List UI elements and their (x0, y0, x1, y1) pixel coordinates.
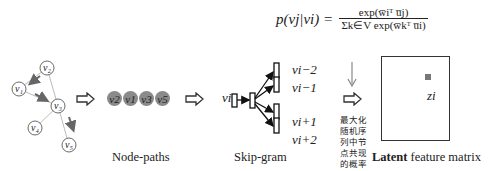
objective-line: 列中节 (339, 137, 367, 148)
latent-feature-matrix (381, 56, 450, 141)
matrix-caption-bold: Latent (372, 150, 407, 164)
objective-text: 最大化 随机序 列中节 点共现 的概率 (339, 115, 367, 170)
node-paths-caption: Node-paths (112, 150, 170, 165)
context-label: vi−1 (292, 80, 317, 96)
probability-formula: p(vj|vi) = exp(w̅iᵀ u̅j) Σk∈V exp(w̅kᵀ u… (276, 6, 428, 32)
node-v5: v₅ (65, 139, 73, 150)
context-label: vi−2 (292, 62, 317, 78)
down-arrow-icon (346, 62, 358, 88)
matrix-caption-rest: feature matrix (407, 150, 481, 164)
path-node: v5 (155, 91, 170, 106)
embedding-point (425, 74, 431, 80)
matrix-caption: Latent feature matrix (372, 150, 481, 165)
node-v2: v₂ (43, 62, 51, 73)
skip-gram-caption: Skip-gram (234, 150, 287, 165)
path-node: v2 (107, 91, 122, 106)
objective-line: 的概率 (339, 159, 367, 170)
objective-line: 点共现 (339, 148, 367, 159)
hollow-arrow-icon (343, 92, 363, 106)
random-walk-graph: v₂ v₁ v₃ v₄ v₅ (0, 0, 100, 171)
formula-numerator: exp(w̅iᵀ u̅j) (339, 6, 427, 19)
path-node: v3 (139, 91, 154, 106)
objective-line: 随机序 (339, 126, 367, 137)
hollow-arrow-icon (185, 92, 205, 106)
embedding-label: zi (427, 88, 436, 104)
node-v3: v₃ (54, 100, 62, 111)
objective-line: 最大化 (339, 115, 367, 126)
context-label: vi+1 (292, 114, 317, 130)
context-label: vi+2 (292, 132, 317, 148)
formula-lhs: p(vj|vi) = (276, 11, 333, 27)
hollow-arrow-icon (76, 92, 96, 106)
node-v1: v₁ (15, 83, 23, 94)
node-v4: v₄ (31, 122, 39, 133)
path-node: v1 (123, 91, 138, 106)
formula-denominator: Σk∈V exp(w̅kᵀ u̅i) (339, 19, 427, 32)
node-path-sequence: v2 v1 v3 v5 (107, 91, 171, 106)
